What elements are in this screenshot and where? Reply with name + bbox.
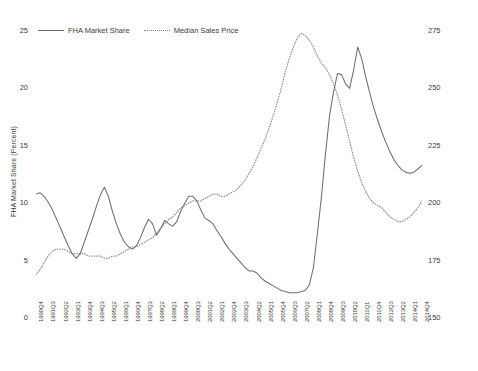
- y-tick-right-250: 250: [428, 83, 450, 92]
- y-tick-right-275: 275: [428, 26, 450, 35]
- y-tick-left-0: 0: [6, 313, 28, 322]
- y-axis-left-title: FHA Market Share (Percent): [10, 107, 17, 237]
- series-svg: [36, 31, 422, 318]
- y-tick-right-175: 175: [428, 256, 450, 265]
- chart-container: FHA Market Share Median Sales Price FHA …: [0, 0, 478, 371]
- y-tick-left-10: 10: [6, 198, 28, 207]
- y-tick-right-200: 200: [428, 198, 450, 207]
- plot-area: [36, 31, 422, 318]
- y-tick-right-225: 225: [428, 141, 450, 150]
- y-tick-left-5: 5: [6, 256, 28, 265]
- y-tick-left-25: 25: [6, 26, 28, 35]
- y-tick-right-150: 150: [428, 313, 450, 322]
- y-tick-left-15: 15: [6, 141, 28, 150]
- y-tick-left-20: 20: [6, 83, 28, 92]
- x-tick-2014Q4: 2014Q4: [424, 301, 430, 322]
